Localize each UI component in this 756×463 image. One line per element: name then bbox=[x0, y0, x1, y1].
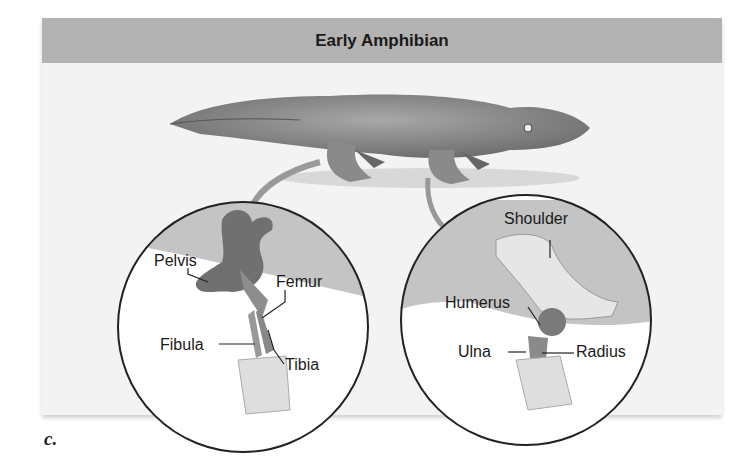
label-femur: Femur bbox=[276, 273, 322, 291]
label-pelvis: Pelvis bbox=[154, 252, 197, 270]
label-shoulder: Shoulder bbox=[504, 210, 568, 228]
forelimb-inset bbox=[400, 195, 660, 445]
label-humerus: Humerus bbox=[445, 294, 510, 312]
label-tibia: Tibia bbox=[285, 356, 319, 374]
label-ulna: Ulna bbox=[458, 343, 491, 361]
panel-letter: c. bbox=[44, 428, 57, 450]
hindlimb-inset bbox=[100, 180, 380, 452]
label-radius: Radius bbox=[576, 343, 626, 361]
label-fibula: Fibula bbox=[160, 336, 204, 354]
amphibian-illustration bbox=[0, 0, 756, 463]
